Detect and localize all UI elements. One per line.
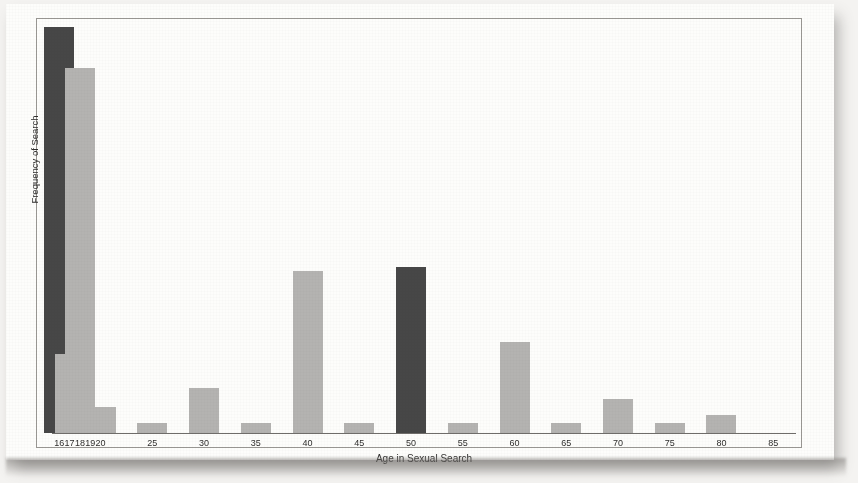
x-tick-label-60: 60 [510,438,520,448]
x-tick-label-75: 75 [665,438,675,448]
x-tick-label-20: 20 [96,438,106,448]
bar-age-25 [137,423,167,433]
x-tick-label-16: 16 [54,438,64,448]
x-tick-label-55: 55 [458,438,468,448]
x-tick-label-18: 18 [75,438,85,448]
x-tick-label-50: 50 [406,438,416,448]
bar-age-60 [500,342,530,433]
plot-area [52,27,796,433]
bar-chart: Frequency of Search Age in Sexual Search… [6,4,834,460]
x-tick-label-30: 30 [199,438,209,448]
scanned-paper: Frequency of Search Age in Sexual Search… [6,4,834,460]
y-axis-label: Frequency of Search [29,100,40,220]
x-tick-label-70: 70 [613,438,623,448]
x-axis-spine [52,433,796,434]
x-tick-label-17: 17 [65,438,75,448]
bar-age-45 [344,423,374,433]
bar-age-70 [603,399,633,434]
bar-age-50 [396,267,426,433]
bar-age-75 [655,423,685,433]
x-tick-label-40: 40 [303,438,313,448]
scanned-page-canvas: Frequency of Search Age in Sexual Search… [0,0,858,483]
x-tick-label-35: 35 [251,438,261,448]
bar-age-35 [241,423,271,433]
bar-age-65 [551,423,581,433]
bar-age-18 [65,68,95,433]
x-tick-label-85: 85 [768,438,778,448]
bar-age-40 [293,271,323,433]
x-tick-label-19: 19 [85,438,95,448]
x-axis-label: Age in Sexual Search [52,453,796,464]
x-tick-label-45: 45 [354,438,364,448]
bar-age-30 [189,388,219,433]
bar-age-55 [448,423,478,433]
bar-age-80 [706,415,736,433]
bar-age-20 [86,407,116,433]
x-tick-label-25: 25 [147,438,157,448]
x-tick-label-80: 80 [716,438,726,448]
x-tick-label-65: 65 [561,438,571,448]
